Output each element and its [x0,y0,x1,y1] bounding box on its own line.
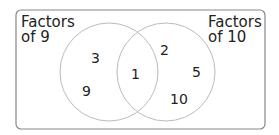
element-10: 10 [170,91,188,107]
set-label-right-line2: of 10 [208,28,246,46]
element-2: 2 [160,42,169,58]
element-5: 5 [192,64,201,80]
set-label-left-line2: of 9 [21,28,50,46]
element-1: 1 [131,66,140,82]
element-9: 9 [82,83,91,99]
element-3: 3 [91,50,100,66]
venn-diagram: Factors of 9 Factors of 10 3 9 1 2 5 10 [0,0,279,135]
